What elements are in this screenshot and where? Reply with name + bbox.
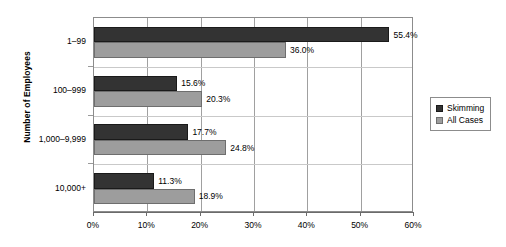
bar-skimming	[94, 124, 188, 140]
legend-item[interactable]: Skimming	[436, 102, 484, 114]
legend-swatch-icon	[436, 105, 443, 112]
group-separator	[94, 67, 412, 68]
bar-all-cases	[94, 42, 286, 58]
x-axis-tick-label: 60%	[393, 220, 433, 230]
x-axis-tick	[200, 212, 201, 216]
bar-all-cases	[94, 91, 202, 107]
bar-value-label: 11.3%	[158, 176, 181, 186]
legend-swatch-icon	[436, 117, 443, 124]
y-axis-tick	[88, 163, 93, 164]
legend-item[interactable]: All Cases	[436, 114, 484, 126]
category-label: 1–99	[6, 36, 86, 46]
bar-value-label: 17.7%	[192, 127, 216, 137]
x-axis-tick	[360, 212, 361, 216]
category-label: 100–999	[6, 85, 86, 95]
bar-skimming	[94, 173, 154, 189]
y-axis-tick	[88, 115, 93, 116]
legend-label: All Cases	[447, 115, 483, 125]
bar-skimming	[94, 27, 389, 43]
bar-value-label: 55.4%	[393, 30, 417, 40]
group-separator	[94, 164, 412, 165]
plot-area: 55.4%36.0%15.6%20.3%17.7%24.8%11.3%18.9%	[93, 17, 413, 212]
x-axis-tick-label: 10%	[126, 220, 166, 230]
bar-all-cases	[94, 140, 226, 156]
x-axis-tick-label: 40%	[286, 220, 326, 230]
bar-chart: Number of Employees 1–99100–9991,000–9,9…	[0, 0, 506, 247]
x-axis-tick-label: 20%	[180, 220, 220, 230]
x-axis-tick	[146, 212, 147, 216]
x-axis-tick	[93, 212, 94, 216]
legend-label: Skimming	[447, 103, 484, 113]
x-axis-tick-label: 30%	[233, 220, 273, 230]
bar-skimming	[94, 76, 177, 92]
category-label: 1,000–9,999	[6, 134, 86, 144]
y-axis-tick	[88, 66, 93, 67]
bar-value-label: 20.3%	[206, 94, 230, 104]
category-label: 10,000+	[6, 183, 86, 193]
group-separator	[94, 116, 412, 117]
bar-value-label: 18.9%	[199, 191, 223, 201]
x-axis-tick-label: 0%	[73, 220, 113, 230]
gridline-vertical	[361, 18, 362, 211]
bar-value-label: 24.8%	[230, 143, 254, 153]
x-axis-tick	[306, 212, 307, 216]
bar-value-label: 36.0%	[290, 45, 314, 55]
x-axis-tick	[413, 212, 414, 216]
x-axis-tick-label: 50%	[340, 220, 380, 230]
x-axis-tick	[253, 212, 254, 216]
category-axis-labels: 1–99100–9991,000–9,99910,000+	[8, 17, 90, 212]
bar-all-cases	[94, 189, 195, 205]
chart-legend: SkimmingAll Cases	[430, 97, 491, 131]
bar-value-label: 15.6%	[181, 78, 205, 88]
